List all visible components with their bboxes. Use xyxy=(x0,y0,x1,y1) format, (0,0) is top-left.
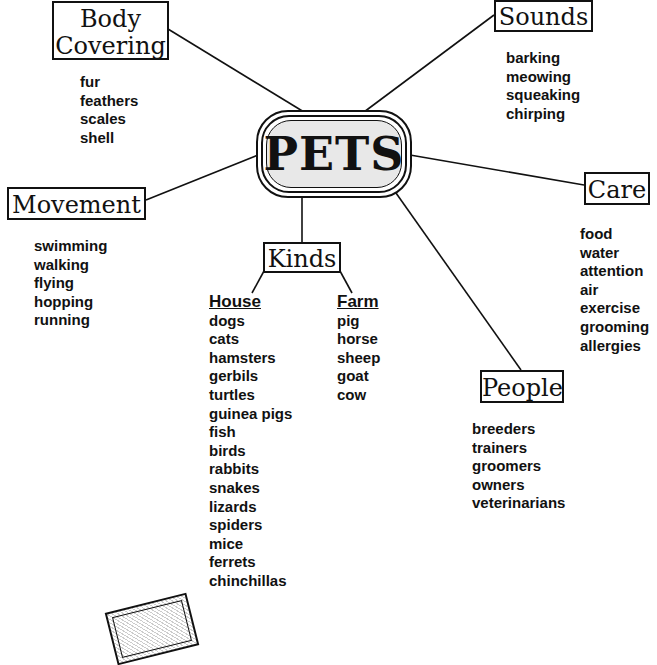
list-item: owners xyxy=(472,476,565,495)
list-sounds: barking meowing squeaking chirping xyxy=(506,49,580,123)
list-item: lizards xyxy=(209,498,292,517)
node-movement: Movement xyxy=(7,187,146,220)
list-item: feathers xyxy=(80,92,138,111)
center-title: PETS xyxy=(266,120,402,188)
list-item: spiders xyxy=(209,516,292,535)
list-item: fish xyxy=(209,423,292,442)
list-kinds-house: House dogs cats hamsters gerbils turtles… xyxy=(209,293,292,591)
list-item: guinea pigs xyxy=(209,405,292,424)
node-title: Care xyxy=(588,176,646,204)
list-item: snakes xyxy=(209,479,292,498)
list-item: attention xyxy=(580,262,649,281)
node-title-line1: Body xyxy=(54,5,167,33)
list-item: veterinarians xyxy=(472,494,565,513)
list-item: shell xyxy=(80,129,138,148)
list-item: squeaking xyxy=(506,86,580,105)
list-item: chirping xyxy=(506,105,580,124)
node-people: People xyxy=(480,370,564,403)
node-title: Movement xyxy=(12,191,141,219)
list-item: ferrets xyxy=(209,553,292,572)
list-item: running xyxy=(34,311,107,330)
list-item: rabbits xyxy=(209,460,292,479)
node-title: People xyxy=(482,374,563,402)
list-care: food water attention air exercise groomi… xyxy=(580,225,649,355)
node-kinds: Kinds xyxy=(263,242,341,273)
list-people: breeders trainers groomers owners veteri… xyxy=(472,420,565,513)
list-item: chinchillas xyxy=(209,572,292,591)
list-movement: swimming walking flying hopping running xyxy=(34,237,107,330)
list-item: groomers xyxy=(472,457,565,476)
list-item: trainers xyxy=(472,439,565,458)
list-item: flying xyxy=(34,274,107,293)
list-item: cow xyxy=(337,386,380,405)
node-care: Care xyxy=(584,172,650,205)
list-body-covering: fur feathers scales shell xyxy=(80,73,138,147)
list-item: allergies xyxy=(580,337,649,356)
list-item: hamsters xyxy=(209,349,292,368)
list-item: hopping xyxy=(34,293,107,312)
list-item: walking xyxy=(34,256,107,275)
list-item: birds xyxy=(209,442,292,461)
list-item: cats xyxy=(209,330,292,349)
list-item: sheep xyxy=(337,349,380,368)
list-item: pig xyxy=(337,312,380,331)
list-item: grooming xyxy=(580,318,649,337)
list-item: breeders xyxy=(472,420,565,439)
list-item: horse xyxy=(337,330,380,349)
list-item: fur xyxy=(80,73,138,92)
list-item: meowing xyxy=(506,68,580,87)
node-title-line2: Covering xyxy=(54,33,167,59)
list-kinds-farm: Farm pig horse sheep goat cow xyxy=(337,293,380,405)
list-item: dogs xyxy=(209,312,292,331)
node-sounds: Sounds xyxy=(494,0,593,32)
list-item: food xyxy=(580,225,649,244)
list-item: air xyxy=(580,281,649,300)
list-item: scales xyxy=(80,110,138,129)
farm-header: Farm xyxy=(337,293,380,312)
list-item: mice xyxy=(209,535,292,554)
house-header: House xyxy=(209,293,292,312)
list-item: swimming xyxy=(34,237,107,256)
list-item: gerbils xyxy=(209,367,292,386)
list-item: barking xyxy=(506,49,580,68)
list-item: turtles xyxy=(209,386,292,405)
list-item: goat xyxy=(337,367,380,386)
center-node-pets: PETS xyxy=(256,110,412,198)
node-title: Sounds xyxy=(499,3,588,31)
list-item: exercise xyxy=(580,299,649,318)
node-title: Kinds xyxy=(268,245,337,273)
node-body-covering: Body Covering xyxy=(52,1,169,60)
list-item: water xyxy=(580,244,649,263)
